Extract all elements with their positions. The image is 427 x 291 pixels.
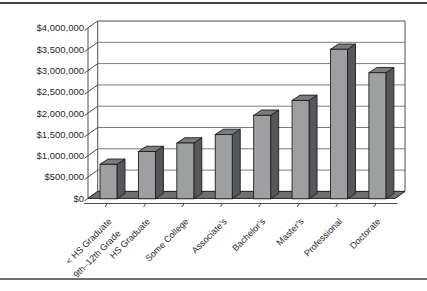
y-axis-label: $3,000,000 (36, 65, 84, 76)
chart-floor (88, 191, 405, 198)
column (254, 115, 271, 198)
column (177, 143, 194, 199)
y-axis-label: $500,000 (44, 171, 84, 182)
column (330, 49, 347, 199)
x-axis-tick (182, 204, 184, 208)
column (292, 100, 309, 198)
y-axis-tick (85, 85, 98, 94)
y-axis-label: $1,000,000 (36, 150, 84, 161)
y-axis-tick (85, 170, 98, 179)
column-side-face (155, 146, 163, 199)
x-axis-tick (259, 204, 261, 208)
y-axis-label: $1,500,000 (36, 129, 84, 140)
page: $4,000,000$3,500,000$3,000,000$2,500,000… (0, 0, 427, 291)
y-axis-tick (85, 21, 98, 30)
column-side-face (232, 129, 240, 199)
y-axis-label: $3,500,000 (36, 44, 84, 55)
lifetime-earnings-chart: $4,000,000$3,500,000$3,000,000$2,500,000… (0, 0, 427, 291)
column (215, 135, 232, 199)
x-axis-tick (297, 204, 299, 208)
y-axis-tick (85, 42, 98, 51)
y-axis-tick (85, 149, 98, 158)
x-axis-tick (220, 204, 222, 208)
y-axis-label: $4,000,000 (36, 22, 84, 33)
x-axis-label: Doctorate (348, 216, 383, 251)
x-axis-tick (336, 204, 338, 208)
x-axis-tick (374, 204, 376, 208)
column-side-face (194, 138, 202, 199)
y-axis-label: $2,500,000 (36, 86, 84, 97)
column (138, 152, 155, 199)
y-axis-tick (85, 64, 98, 73)
x-axis-tick (144, 204, 146, 208)
column-side-face (347, 44, 355, 199)
x-axis-label: Master’s (274, 216, 306, 248)
x-axis-label: Associate’s (190, 216, 229, 255)
y-axis-tick (85, 128, 98, 137)
column (369, 73, 386, 199)
x-axis-label: Bachelor’s (230, 216, 267, 253)
y-axis-label: $2,000,000 (36, 108, 84, 119)
bottom-rule (0, 278, 427, 280)
column-side-face (386, 67, 394, 198)
x-axis-label: Professional (302, 216, 344, 258)
column (100, 164, 117, 198)
column-side-face (271, 110, 279, 199)
chart-canvas: $4,000,000$3,500,000$3,000,000$2,500,000… (0, 0, 427, 291)
y-axis-tick (85, 106, 98, 115)
column-side-face (309, 95, 317, 199)
x-axis-tick (105, 204, 107, 208)
y-axis-label: $0 (73, 193, 84, 204)
column-side-face (117, 159, 125, 199)
